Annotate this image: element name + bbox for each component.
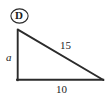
figure-container: D a 15 10 (0, 0, 110, 102)
label-hypotenuse: 15 (60, 40, 71, 51)
problem-letter-badge: D (15, 10, 23, 21)
triangle-hypotenuse (18, 30, 104, 80)
label-base: 10 (56, 84, 67, 95)
label-vertical-leg: a (6, 52, 12, 63)
